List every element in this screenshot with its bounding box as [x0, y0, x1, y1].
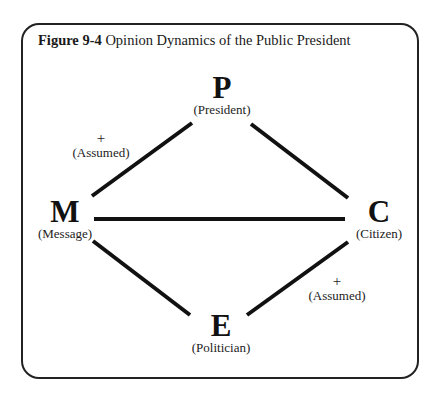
node-president: P (President): [193, 74, 250, 117]
plus-sign: +: [308, 275, 365, 288]
plus-sign: +: [72, 132, 129, 145]
assumed-note: (Assumed): [72, 145, 129, 160]
node-message: M (Message): [38, 198, 92, 241]
node-letter: M: [38, 198, 92, 226]
node-label: (Message): [38, 226, 92, 241]
assumed-note: (Assumed): [308, 288, 365, 303]
node-letter: E: [192, 312, 251, 340]
node-label: (Politician): [192, 340, 251, 355]
node-letter: P: [193, 74, 250, 102]
node-politician: E (Politician): [192, 312, 251, 355]
node-letter: C: [356, 198, 402, 226]
node-label: (President): [193, 102, 250, 117]
node-citizen: C (Citizen): [356, 198, 402, 241]
node-label: (Citizen): [356, 226, 402, 241]
edge-sign-politician-citizen: + (Assumed): [308, 275, 365, 303]
edge-president-citizen: [251, 124, 348, 198]
edge-sign-president-message: + (Assumed): [72, 132, 129, 160]
edge-message-politician: [93, 241, 190, 315]
